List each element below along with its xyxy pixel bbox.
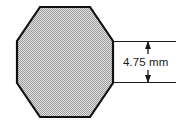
figure-container: 4.75 mm bbox=[0, 0, 180, 124]
dimension-label: 4.75 mm bbox=[123, 56, 168, 68]
octagon-shape bbox=[17, 7, 113, 117]
octagon-dimension-drawing: 4.75 mm bbox=[0, 0, 180, 124]
